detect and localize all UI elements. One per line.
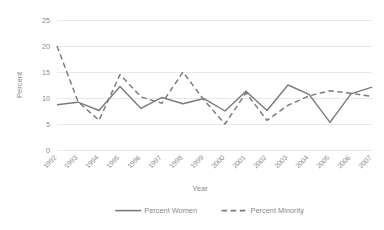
x-tick-label: 1997 (147, 154, 163, 170)
x-axis-tick-labels: 1992199319941995199619971998199920002001… (42, 154, 373, 170)
x-tick-label: 1995 (105, 154, 121, 170)
x-tick-label: 1996 (126, 154, 142, 170)
x-tick-label: 2005 (315, 154, 331, 170)
x-tick-label: 2004 (294, 154, 310, 170)
legend-label[interactable]: Percent Women (144, 206, 197, 215)
y-tick-label: 25 (42, 16, 50, 25)
gridlines (57, 20, 372, 150)
x-tick-label: 1998 (168, 154, 184, 170)
chart-legend: Percent WomenPercent Minority (115, 206, 304, 215)
x-axis-title: Year (192, 184, 208, 193)
y-axis-tick-labels: 0510152025 (42, 16, 50, 155)
x-tick-label: 1999 (189, 154, 205, 170)
y-tick-label: 0 (46, 146, 50, 155)
y-tick-label: 5 (46, 120, 50, 129)
legend-label[interactable]: Percent Minority (251, 206, 305, 215)
x-tick-label: 2007 (357, 154, 373, 170)
x-tick-label: 2003 (273, 154, 289, 170)
y-tick-label: 10 (42, 94, 50, 103)
y-axis-title: Percent (15, 71, 24, 98)
x-tick-label: 2000 (210, 154, 226, 170)
chart-container: 0510152025 19921993199419951996199719981… (0, 0, 384, 230)
x-tick-label: 2006 (336, 154, 352, 170)
x-tick-label: 1992 (42, 154, 58, 170)
data-series-group (57, 46, 372, 124)
x-tick-label: 1993 (63, 154, 79, 170)
series-line-percent-women (57, 85, 372, 122)
x-tick-label: 2001 (231, 154, 247, 170)
x-tick-label: 2002 (252, 154, 268, 170)
y-tick-label: 20 (42, 42, 50, 51)
y-tick-label: 15 (42, 68, 50, 77)
series-line-percent-minority (57, 46, 372, 124)
line-chart: 0510152025 19921993199419951996199719981… (0, 0, 384, 230)
x-tick-label: 1994 (84, 154, 100, 170)
